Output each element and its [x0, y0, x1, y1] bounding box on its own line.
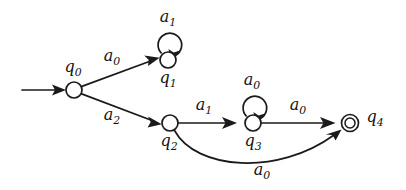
automaton-diagram: q0 q1 q2 q3 q4 a0 a1 a2 a1 a0 a0 a0	[0, 0, 406, 190]
state-q4-accepting[interactable]	[342, 115, 359, 132]
state-q3[interactable]	[245, 115, 261, 131]
edge-label-q2-q4: a0	[254, 162, 270, 182]
state-label-q1: q1	[159, 70, 176, 90]
edge-label-q1-self: a1	[160, 9, 176, 29]
edge-label-q3-q4: a0	[290, 97, 306, 117]
start-arrow	[22, 85, 66, 96]
state-label-q4: q4	[366, 109, 383, 129]
edge-q0-q2	[81, 94, 162, 128]
edge-q2-q3	[178, 117, 237, 129]
state-q0[interactable]	[66, 82, 82, 98]
edge-label-q0-q2: a2	[104, 107, 120, 127]
state-label-q3: q3	[244, 133, 261, 153]
edge-q3-q4	[261, 117, 335, 129]
state-q1[interactable]	[160, 52, 176, 68]
state-q2[interactable]	[162, 115, 178, 131]
edge-q0-q1	[81, 55, 159, 86]
edge-label-q3-self: a0	[244, 72, 260, 92]
edge-label-q2-q3: a1	[196, 97, 212, 117]
state-label-q2: q2	[160, 133, 177, 153]
edge-label-q0-q1: a0	[104, 48, 120, 68]
state-label-q0: q0	[64, 59, 81, 79]
